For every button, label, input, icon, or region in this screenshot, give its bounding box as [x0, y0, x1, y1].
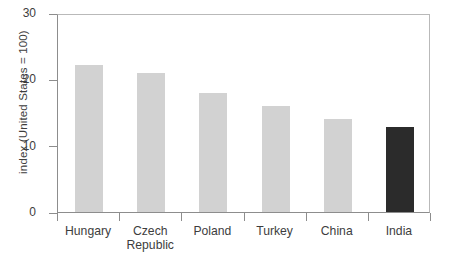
x-axis-tick: [368, 213, 369, 221]
y-axis-title: index (United States = 100): [17, 2, 29, 202]
bar: [137, 73, 165, 212]
x-axis-tick: [244, 213, 245, 221]
y-axis-tick-label: 30: [0, 7, 36, 19]
y-axis-tick: [49, 213, 57, 214]
plot-area: [57, 14, 430, 213]
x-axis-tick: [57, 213, 58, 221]
x-axis-category-label: India: [368, 224, 430, 238]
bar: [324, 119, 352, 212]
y-axis-tick-label: 0: [0, 206, 36, 218]
x-axis-category-label: Czech Republic: [119, 224, 181, 252]
bars-container: [58, 15, 429, 212]
bar: [386, 127, 414, 212]
x-axis-tick: [119, 213, 120, 221]
y-axis-tick-label: 20: [0, 73, 36, 85]
x-axis-category-label: Turkey: [244, 224, 306, 238]
bar-chart-figure: index (United States = 100) 0102030 Hung…: [0, 0, 449, 261]
x-axis-category-label: Poland: [181, 224, 243, 238]
x-axis-tick: [430, 213, 431, 221]
x-axis-tick: [306, 213, 307, 221]
y-axis-tick: [49, 146, 57, 147]
y-axis-tick-label: 10: [0, 140, 36, 152]
y-axis-tick: [49, 14, 57, 15]
x-axis-category-label: China: [306, 224, 368, 238]
x-axis-tick: [181, 213, 182, 221]
y-axis-tick: [49, 80, 57, 81]
bar: [262, 106, 290, 212]
bar: [75, 65, 103, 212]
bar: [199, 93, 227, 212]
x-axis-category-label: Hungary: [57, 224, 119, 238]
